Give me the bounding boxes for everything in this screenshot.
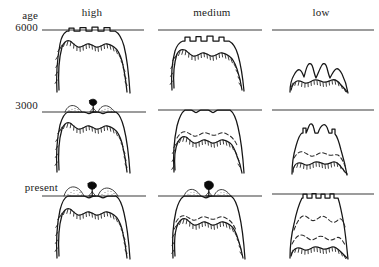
knoll-stipple (188, 192, 229, 196)
stipple-hatching (293, 162, 344, 172)
surface-outline (290, 64, 348, 93)
surface-outline (172, 36, 244, 91)
stipple-hatching (172, 219, 242, 255)
tree-marker-icon (89, 99, 96, 112)
column-header-medium: medium (172, 6, 252, 18)
residual-knoll-right (214, 190, 231, 196)
stipple-hatching (55, 123, 127, 167)
weathering-front-line (59, 123, 127, 172)
weathering-front-line (174, 50, 242, 90)
axis-label-age: age (0, 10, 38, 22)
cell-medium-present (156, 180, 268, 266)
weathering-front-line (175, 219, 243, 258)
residual-knoll-right (98, 188, 118, 196)
cell-high-3000 (40, 98, 152, 180)
cell-medium-6000 (156, 20, 268, 100)
weathering-front-line (59, 209, 127, 258)
cell-low-6000 (268, 20, 378, 100)
weathering-front-line (59, 41, 127, 92)
stipple-hatching (55, 209, 127, 253)
cell-low-3000 (268, 100, 378, 184)
axis-label-age-row-6000: age 6000 (0, 10, 38, 33)
former-surface-dashed (177, 132, 237, 145)
tree-marker-icon (205, 181, 214, 196)
residual-knoll-left (65, 106, 82, 112)
stipple-hatching (55, 41, 127, 85)
stipple-hatching (172, 137, 240, 169)
former-surface-dashed-upper (294, 216, 345, 230)
residual-knoll-left (184, 189, 201, 196)
former-surface-dashed-lower (292, 235, 345, 245)
row-label-3000: 3000 (0, 100, 38, 112)
cell-high-6000 (40, 20, 150, 100)
figure-root: high medium low age 6000 3000 present (0, 0, 379, 267)
surface-outline (57, 196, 130, 259)
row-label-3000-wrap: 3000 (0, 100, 38, 112)
stipple-hatching (170, 50, 241, 86)
surface-outline (57, 27, 130, 93)
tree-marker-icon (88, 182, 97, 196)
cell-medium-3000 (156, 100, 268, 182)
column-header-low: low (290, 6, 352, 18)
row-label-6000: 6000 (0, 22, 38, 34)
surface-outline (57, 112, 130, 173)
cell-high-present (40, 180, 152, 266)
residual-knoll-left (64, 187, 84, 196)
cell-low-present (268, 180, 378, 266)
column-header-high: high (56, 6, 128, 18)
residual-knoll-right (98, 106, 115, 112)
